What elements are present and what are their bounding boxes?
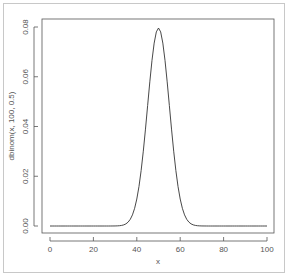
x-tick-label: 80: [219, 245, 228, 254]
x-tick-label: 20: [89, 245, 98, 254]
x-tick-label: 40: [132, 245, 141, 254]
plot-box: [42, 19, 274, 233]
x-axis: 020406080100: [48, 237, 274, 254]
data-line: [50, 28, 267, 226]
y-tick-label: 0.06: [21, 68, 30, 84]
y-tick-label: 0.08: [21, 19, 30, 35]
x-axis-title: x: [156, 257, 160, 266]
y-tick-label: 0.00: [21, 218, 30, 234]
y-tick-label: 0.04: [21, 118, 30, 134]
y-axis-title: dbinom(x, 100, 0.5): [7, 91, 16, 160]
y-axis: 0.000.020.040.060.08: [21, 19, 38, 234]
x-tick-label: 0: [48, 245, 53, 254]
x-tick-label: 60: [176, 245, 185, 254]
chart-canvas: 020406080100 0.000.020.040.060.08 x dbin…: [0, 0, 289, 277]
x-tick-label: 100: [260, 245, 274, 254]
y-tick-label: 0.02: [21, 168, 30, 184]
